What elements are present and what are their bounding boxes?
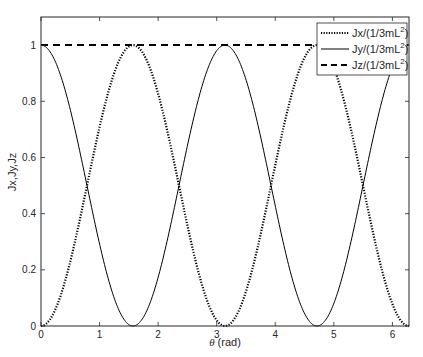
legend: Jx/(1/3mL2) Jy/(1/3mL2) Jz/(1/3mL2) [317,23,408,75]
x-tick-label: 4 [272,329,278,340]
y-tick-label: 0.6 [22,152,36,163]
y-tick-label: 0.4 [22,208,36,219]
x-tick-label: 6 [390,329,396,340]
x-axis-label: θ (rad) [209,336,241,348]
y-tick-label: 0 [30,321,36,332]
legend-label-jy: Jy/(1/3mL2) [352,41,408,55]
line-chart-svg: 0123456 00.20.40.60.81 θ (rad) Jx,Jy,Jz … [0,0,423,357]
y-tick-label: 1 [30,40,36,51]
legend-label-jx: Jx/(1/3mL2) [352,25,408,39]
x-tick-label: 2 [155,329,161,340]
x-tick-label: 1 [97,329,103,340]
x-tick-label: 5 [331,329,337,340]
x-axis-unit: (rad) [215,336,241,348]
y-tick-label: 0.2 [22,264,36,275]
x-tick-label: 0 [38,329,44,340]
y-tick-label: 0.8 [22,96,36,107]
y-axis-label: Jx,Jy,Jz [6,153,18,191]
legend-label-jz: Jz/(1/3mL2) [352,57,408,71]
chart: 0123456 00.20.40.60.81 θ (rad) Jx,Jy,Jz … [0,0,423,357]
